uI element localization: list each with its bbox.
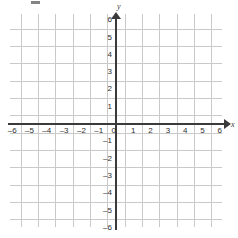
x-tick-label: 3 xyxy=(160,127,176,135)
y-tick-label: –5 xyxy=(98,207,112,215)
y-tick-label: –1 xyxy=(98,137,112,145)
scan-artifact-mark xyxy=(31,1,40,4)
x-tick-label: –5 xyxy=(22,127,38,135)
x-tick-label: –4 xyxy=(39,127,55,135)
coordinate-plane-figure: x y 0 –6–5–4–3–2–1123456 654321–1–2–3–4–… xyxy=(0,0,238,238)
y-tick-label: 3 xyxy=(98,68,112,76)
y-axis-arrow-icon xyxy=(111,12,121,19)
y-axis-line xyxy=(115,14,117,230)
y-tick-label: 1 xyxy=(98,103,112,111)
y-tick-label: 4 xyxy=(98,51,112,59)
x-axis-label: x xyxy=(231,121,235,129)
x-tick-label: –3 xyxy=(56,127,72,135)
x-tick-label: –2 xyxy=(73,127,89,135)
y-tick-label: –3 xyxy=(98,172,112,180)
x-axis-line xyxy=(8,123,226,125)
x-tick-label: –1 xyxy=(91,127,107,135)
y-tick-label: 2 xyxy=(98,85,112,93)
y-tick-label: –6 xyxy=(98,224,112,232)
y-tick-label: –2 xyxy=(98,155,112,163)
x-tick-label: 2 xyxy=(143,127,159,135)
x-tick-label: 4 xyxy=(177,127,193,135)
x-tick-label: 5 xyxy=(195,127,211,135)
y-tick-label: 5 xyxy=(98,34,112,42)
y-tick-label: –4 xyxy=(98,189,112,197)
x-tick-label: 6 xyxy=(212,127,228,135)
x-tick-label: –6 xyxy=(4,127,20,135)
x-tick-label: 1 xyxy=(125,127,141,135)
y-axis-label: y xyxy=(117,3,121,11)
origin-tick-label: 0 xyxy=(106,127,116,135)
y-tick-label: 6 xyxy=(98,16,112,24)
